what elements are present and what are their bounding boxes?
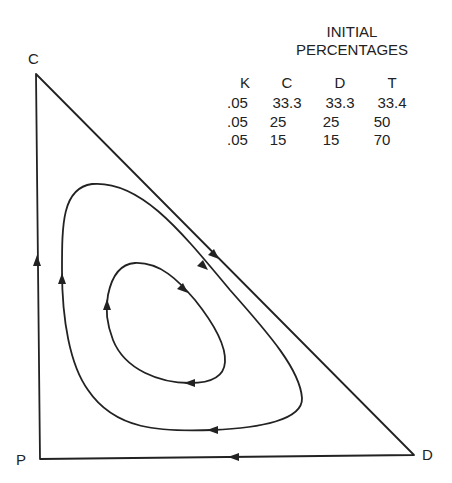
arrow-up-icon bbox=[33, 255, 41, 266]
vertex-label-d: D bbox=[422, 447, 433, 462]
table-header-c: C bbox=[262, 75, 312, 90]
table-cell: 25 bbox=[306, 114, 356, 129]
table-cell: 15 bbox=[253, 132, 303, 147]
table-header-t: T bbox=[367, 75, 417, 90]
inner-loop-curve bbox=[107, 263, 225, 383]
arrow-left-icon bbox=[207, 426, 218, 434]
table-header-d: D bbox=[315, 75, 365, 90]
arrow-up-icon bbox=[58, 273, 66, 284]
table-title-line1: INITIAL bbox=[272, 24, 432, 41]
arrow-down-right-icon bbox=[177, 283, 188, 293]
arrow-down-right-icon bbox=[208, 249, 219, 259]
table-cell: 33.3 bbox=[262, 95, 312, 110]
table-cell: 15 bbox=[306, 132, 356, 147]
table-cell: 50 bbox=[357, 114, 407, 129]
table-cell: 25 bbox=[253, 114, 303, 129]
arrow-left-icon bbox=[228, 453, 239, 461]
arrow-left-icon bbox=[184, 379, 195, 387]
vertex-label-p: P bbox=[16, 452, 26, 467]
table-title-line2: PERCENTAGES bbox=[272, 42, 432, 59]
table-cell: 70 bbox=[357, 132, 407, 147]
table-cell: .05 bbox=[227, 95, 267, 110]
arrow-up-icon bbox=[103, 299, 111, 310]
ternary-phase-diagram bbox=[0, 0, 452, 483]
table-cell: 33.4 bbox=[367, 95, 417, 110]
table-cell: 33.3 bbox=[315, 95, 365, 110]
table-header-k: K bbox=[230, 75, 260, 90]
vertex-label-c: C bbox=[28, 51, 39, 66]
